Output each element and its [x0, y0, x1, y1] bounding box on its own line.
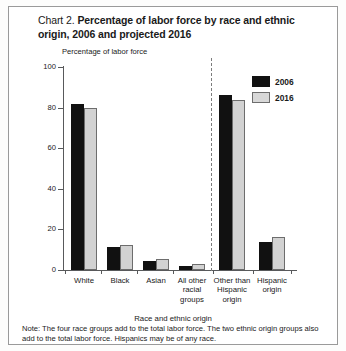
bar-2006: [259, 242, 272, 270]
x-axis-tick: [253, 270, 254, 274]
x-axis-label: Race and ethnic origin: [0, 314, 346, 323]
bar-2016: [120, 245, 133, 270]
y-axis-tick: [58, 189, 63, 190]
bar-2006: [179, 266, 192, 270]
legend-label-2006: 2006: [275, 77, 294, 87]
x-axis-line: [63, 270, 297, 271]
x-axis-tick: [291, 270, 292, 274]
y-axis-tick-label: 80: [16, 103, 56, 112]
bar-2016: [156, 259, 169, 270]
category-group-divider: [211, 58, 212, 271]
y-axis-tick-label: 20: [16, 224, 56, 233]
x-axis-tick: [65, 270, 66, 274]
x-axis-category-label-line: origin: [203, 295, 261, 304]
x-axis-tick: [101, 270, 102, 274]
bar-2006: [107, 247, 120, 270]
y-axis-tick-label: 40: [16, 184, 56, 193]
y-axis-tick: [58, 148, 63, 149]
y-axis-tick: [58, 108, 63, 109]
y-axis-tick: [58, 229, 63, 230]
chart-legend: 2006 2016: [252, 76, 294, 108]
y-axis-line: [63, 66, 64, 271]
bar-2006: [219, 95, 232, 270]
x-axis-category-label-line: Hispanic: [243, 276, 301, 285]
legend-label-2016: 2016: [275, 93, 294, 103]
x-axis-tick: [213, 270, 214, 274]
chart-note: Note: The four race groups add to the to…: [22, 324, 322, 344]
legend-swatch-2006-icon: [252, 76, 270, 87]
x-axis-category-label: Hispanicorigin: [243, 276, 301, 295]
bar-2016: [232, 100, 245, 270]
x-axis-tick: [173, 270, 174, 274]
legend-item-2006: 2006: [252, 76, 294, 87]
bar-2016: [192, 264, 205, 270]
y-axis-tick-label: 100: [16, 62, 56, 71]
bar-2016: [84, 108, 97, 270]
bar-2006: [143, 261, 156, 270]
plot-area: 020406080100 WhiteBlackAsianAll otherrac…: [0, 0, 346, 351]
bar-2016: [272, 237, 285, 270]
x-axis-category-label-line: origin: [243, 285, 301, 294]
chart-figure: Chart 2. Percentage of labor force by ra…: [0, 0, 346, 351]
legend-swatch-2016-icon: [252, 92, 270, 103]
y-axis-tick-label: 0: [16, 265, 56, 274]
legend-item-2016: 2016: [252, 92, 294, 103]
y-axis-tick: [58, 270, 63, 271]
bar-2006: [71, 104, 84, 270]
y-axis-tick-label: 60: [16, 143, 56, 152]
y-axis-tick: [58, 67, 63, 68]
x-axis-tick: [137, 270, 138, 274]
